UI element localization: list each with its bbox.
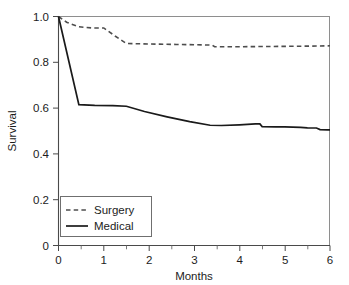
x-tick-label-6: 6 (327, 254, 333, 266)
series-line-surgery (59, 17, 331, 47)
y-tick-label-0.6: 0.6 (33, 102, 49, 114)
y-tick-label-1.0: 1.0 (33, 11, 49, 23)
survival-chart-svg: 1.0 0.8 0.6 0.4 0.2 0 Survival 0 1 (0, 0, 349, 285)
chart-legend[interactable]: Surgery Medical (61, 197, 152, 237)
x-tick-label-4: 4 (237, 254, 244, 266)
x-tick-label-2: 2 (146, 254, 152, 266)
survival-chart-figure: 1.0 0.8 0.6 0.4 0.2 0 Survival 0 1 (0, 0, 349, 285)
y-tick-label-0: 0 (43, 240, 49, 252)
x-axis: 0 1 2 3 4 5 6 Months (55, 246, 333, 283)
x-tick-label-0: 0 (55, 254, 61, 266)
legend-label-medical: Medical (94, 220, 134, 232)
data-series-group (59, 17, 331, 130)
series-line-medical (59, 17, 331, 130)
x-tick-label-5: 5 (282, 254, 288, 266)
x-tick-label-1: 1 (101, 254, 107, 266)
x-axis-title: Months (175, 270, 213, 282)
y-tick-label-0.8: 0.8 (33, 56, 49, 68)
y-axis: 1.0 0.8 0.6 0.4 0.2 0 Survival (6, 11, 59, 252)
y-tick-label-0.4: 0.4 (33, 148, 50, 160)
legend-label-surgery: Surgery (94, 204, 135, 216)
x-tick-label-3: 3 (191, 254, 197, 266)
y-axis-title: Survival (6, 111, 18, 152)
y-tick-label-0.2: 0.2 (33, 194, 49, 206)
